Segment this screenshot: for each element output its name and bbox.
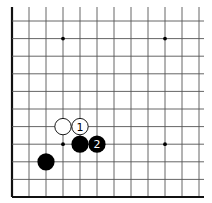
star-point — [163, 37, 167, 41]
star-point — [163, 142, 167, 146]
white-stone-move-1: 1 — [72, 118, 88, 134]
star-point — [61, 142, 65, 146]
go-board: 12 — [0, 0, 212, 203]
black-stone — [71, 136, 88, 153]
black-stone — [37, 153, 54, 170]
star-point — [61, 37, 65, 41]
move-number: 2 — [94, 138, 101, 151]
black-stone-move-2: 2 — [88, 136, 105, 153]
white-stone — [55, 118, 71, 134]
move-number: 1 — [77, 121, 84, 134]
